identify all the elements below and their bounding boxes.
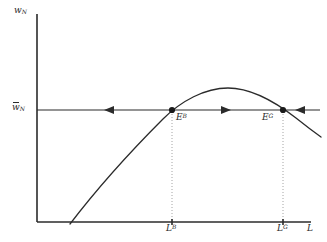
wage-equilibrium-figure: wN wN EB EG LB LG L	[0, 0, 327, 242]
reservation-wage-label-base: w	[12, 103, 20, 112]
figure-canvas	[0, 0, 327, 242]
x-tick-label-bad-superscript: B	[172, 223, 176, 230]
reservation-wage-label: wN	[12, 103, 25, 112]
label-bad-equilibrium-base: E	[176, 112, 183, 122]
y-axis-label-subscript: N	[22, 8, 27, 15]
x-tick-label-good: LG	[277, 224, 288, 233]
equilibrium-dot-bad	[169, 107, 175, 113]
arrow-right-of-eg	[295, 106, 305, 114]
x-tick-label-good-superscript: G	[283, 223, 288, 230]
overbar-accent	[13, 102, 19, 103]
label-good-equilibrium-base: E	[262, 112, 269, 122]
x-axis-label: L	[307, 224, 313, 233]
y-axis-label: wN	[14, 6, 27, 15]
reservation-wage-label-subscript: N	[20, 105, 25, 112]
equilibrium-dot-good	[280, 107, 286, 113]
x-tick-label-bad: LB	[166, 224, 176, 233]
arrow-left-of-eb	[104, 106, 114, 114]
arrow-between-eb-eg	[221, 106, 231, 114]
y-axis-label-base: w	[14, 5, 22, 15]
label-good-equilibrium: EG	[262, 113, 273, 122]
label-bad-equilibrium-superscript: B	[183, 112, 187, 119]
label-bad-equilibrium: EB	[176, 113, 187, 122]
label-good-equilibrium-superscript: G	[269, 112, 274, 119]
